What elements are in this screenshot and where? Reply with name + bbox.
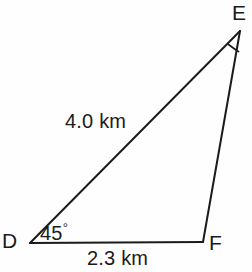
angle-measure-value-d: 45 [40,222,63,244]
triangle-figure: E D F 4.0 km 2.3 km 45° [0,0,252,272]
side-length-label-de: 4.0 km [65,111,126,131]
angle-measure-label-d: 45° [40,221,68,243]
side-length-label-df: 2.3 km [87,248,148,268]
vertex-label-e: E [232,2,246,23]
vertex-label-f: F [209,232,222,253]
degree-symbol-icon: ° [63,220,68,235]
vertex-label-d: D [2,230,17,251]
